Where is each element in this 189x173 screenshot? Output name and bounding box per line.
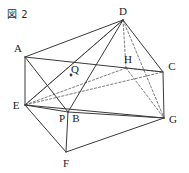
edge-c-g: [163, 72, 164, 118]
edge-e-c-hidden: [25, 72, 163, 105]
visible-edges-group: [25, 20, 164, 152]
vertex-label-f: F: [63, 158, 69, 169]
vertex-label-b: B: [72, 113, 79, 124]
vertex-label-p: P: [59, 113, 65, 124]
vertex-label-h: H: [124, 54, 132, 65]
edge-f-g: [66, 118, 164, 152]
edge-h-g-hidden: [126, 68, 164, 118]
edge-b-g: [68, 112, 164, 118]
edge-e-g: [25, 105, 164, 118]
vertex-label-g: G: [169, 114, 177, 125]
figure-drawing-canvas: [0, 0, 189, 173]
edge-b-f: [66, 112, 68, 152]
edge-a-c: [25, 57, 163, 72]
vertex-label-e: E: [13, 100, 20, 111]
vertex-label-q: Q: [71, 64, 79, 75]
vertex-label-c: C: [168, 61, 175, 72]
vertex-label-a: A: [14, 43, 22, 54]
hidden-edges-group: [25, 20, 164, 118]
vertex-label-d: D: [119, 6, 127, 17]
geometry-figure: 図 2 ABCDEFGHPQ: [0, 0, 189, 173]
edge-d-g-hidden: [123, 20, 164, 118]
edge-a-d: [25, 20, 123, 57]
